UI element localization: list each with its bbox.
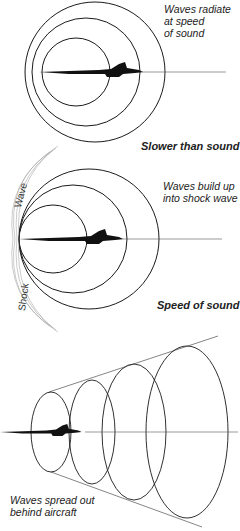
note-line: at speed bbox=[164, 15, 231, 27]
aircraft-icon bbox=[39, 62, 143, 77]
note-line: behind aircraft bbox=[10, 506, 94, 518]
note-line: into shock wave bbox=[163, 192, 238, 204]
note-line: Waves radiate bbox=[164, 3, 231, 15]
aircraft-icon bbox=[19, 229, 123, 244]
sonic-caption: Speed of sound bbox=[157, 299, 240, 311]
supersonic-note: Waves spread out behind aircraft bbox=[10, 494, 94, 518]
subsonic-caption: Slower than sound bbox=[141, 140, 239, 152]
note-line: Waves spread out bbox=[10, 494, 94, 506]
sonic-note: Waves build up into shock wave bbox=[163, 180, 238, 204]
note-line: Waves build up bbox=[163, 180, 238, 192]
cone-edge-top bbox=[49, 336, 218, 392]
note-line: of sound bbox=[164, 27, 231, 39]
diagram-canvas bbox=[0, 0, 240, 531]
subsonic-note: Waves radiate at speed of sound bbox=[164, 3, 231, 39]
